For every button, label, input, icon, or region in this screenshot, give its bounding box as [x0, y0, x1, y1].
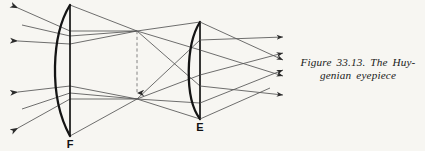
incoming-ray-bundle-upper: [18, 8, 70, 44]
ray-segment: [70, 5, 137, 31]
figure-caption: Figure 33.13. The Huy- genian eyepiece: [296, 56, 420, 82]
eye-lens-E: [189, 22, 200, 119]
field-lens-convex-surface: [55, 5, 70, 136]
incoming-ray-bundle-lower: [18, 86, 70, 128]
eye-lens-convex-surface: [189, 22, 200, 119]
ray-segment-bundle-middle: [70, 5, 200, 136]
emergent-ray: [200, 70, 283, 103]
ray-segment: [70, 93, 137, 99]
emergent-ray: [200, 88, 270, 119]
incoming-ray: [22, 93, 70, 109]
emergent-ray: [200, 37, 283, 40]
figure-caption-line-1: Figure 33.13. The Huy-: [301, 56, 416, 68]
incoming-ray: [18, 41, 70, 44]
eye-lens-label: E: [196, 121, 203, 133]
incoming-ray: [22, 25, 70, 36]
ray-segment: [137, 31, 200, 86]
ray-segment: [70, 31, 137, 44]
emergent-ray-bundle: [200, 22, 283, 119]
ray-segment: [70, 99, 137, 136]
figure-caption-line-2: genian eyepiece: [296, 69, 420, 82]
field-lens-F: [55, 5, 70, 136]
field-lens-label: F: [67, 138, 74, 150]
ray-segment: [137, 22, 200, 31]
figure-huygenian-eyepiece: F E Figure 33.13. The Huy- genian eyepie…: [0, 0, 425, 151]
ray-segment: [70, 86, 137, 99]
ray-segment: [70, 31, 137, 36]
incoming-ray: [18, 86, 70, 92]
incoming-ray: [18, 99, 70, 128]
emergent-ray: [200, 86, 283, 95]
